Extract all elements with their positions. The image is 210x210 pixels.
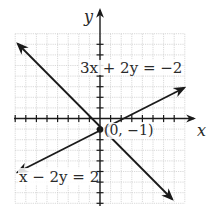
y-axis-label: y: [83, 7, 94, 26]
coordinate-plane-figure: x y 3x + 2y = −2 x − 2y = 2 (0, −1): [0, 0, 210, 210]
intersection-point: [97, 126, 103, 132]
x-axis-label: x: [197, 121, 206, 140]
line-label-x-minus-2y: x − 2y = 2: [19, 168, 99, 186]
line-label-3x-plus-2y: 3x + 2y = −2: [80, 59, 182, 77]
intersection-label: (0, −1): [104, 122, 153, 138]
